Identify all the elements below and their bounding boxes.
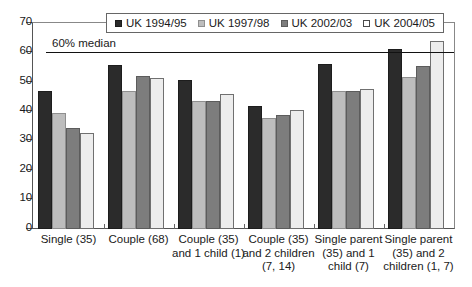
legend-item-label: UK 1994/95 xyxy=(126,17,187,29)
legend-item-label: UK 2002/03 xyxy=(292,17,353,29)
bar xyxy=(80,133,94,228)
y-tick-label: 60 xyxy=(8,46,32,58)
legend-item: UK 1997/98 xyxy=(198,17,270,29)
bar xyxy=(206,101,220,228)
y-tick-label: 50 xyxy=(8,75,32,87)
bar xyxy=(360,89,374,229)
series-2-swatch xyxy=(281,20,288,27)
bar xyxy=(332,91,346,228)
x-axis-labels: Single (35)Couple (68)Couple (35)and 1 c… xyxy=(34,233,454,287)
bars-layer xyxy=(34,23,454,229)
bar-chart: 010203040506070 60% median UK 1994/95UK … xyxy=(0,0,472,287)
bar xyxy=(346,91,360,228)
bar xyxy=(430,41,444,229)
y-tick-label: 30 xyxy=(8,134,32,146)
bar xyxy=(66,128,80,228)
series-0-swatch xyxy=(115,20,122,27)
median-line-label: 60% median xyxy=(52,37,116,49)
bar-group xyxy=(244,23,314,229)
bar xyxy=(318,64,332,228)
bar xyxy=(108,65,122,229)
bar-group xyxy=(384,23,454,229)
bar xyxy=(388,49,402,229)
bar xyxy=(178,80,192,229)
bar xyxy=(136,76,150,229)
y-tick-label: 10 xyxy=(8,192,32,204)
legend-item: UK 1994/95 xyxy=(115,17,187,29)
x-axis-category-label: Single parent(35) and 2children (1, 7) xyxy=(375,233,463,274)
median-line xyxy=(46,52,454,53)
bar xyxy=(38,91,52,228)
legend-item: UK 2004/05 xyxy=(363,17,435,29)
bar-group xyxy=(174,23,244,229)
bar-group xyxy=(314,23,384,229)
bar xyxy=(122,91,136,229)
bar xyxy=(416,66,430,229)
legend-item: UK 2002/03 xyxy=(281,17,353,29)
bar xyxy=(52,113,66,229)
bar xyxy=(150,78,164,229)
bar xyxy=(402,77,416,228)
y-tick-label: 20 xyxy=(8,163,32,175)
y-tick-label: 70 xyxy=(8,16,32,28)
y-tick-label: 0 xyxy=(8,222,32,234)
chart-legend: UK 1994/95UK 1997/98UK 2002/03UK 2004/05 xyxy=(106,13,444,33)
bar-group xyxy=(104,23,174,229)
bar xyxy=(290,110,304,228)
bar xyxy=(262,118,276,229)
legend-item-label: UK 2004/05 xyxy=(374,17,435,29)
legend-item-label: UK 1997/98 xyxy=(209,17,270,29)
bar xyxy=(192,101,206,229)
bar xyxy=(248,106,262,228)
series-3-swatch xyxy=(363,20,370,27)
y-tick-label: 40 xyxy=(8,104,32,116)
bar-group xyxy=(34,23,104,229)
bar xyxy=(220,94,234,228)
series-1-swatch xyxy=(198,20,205,27)
y-axis: 010203040506070 xyxy=(0,22,32,229)
bar xyxy=(276,115,290,228)
